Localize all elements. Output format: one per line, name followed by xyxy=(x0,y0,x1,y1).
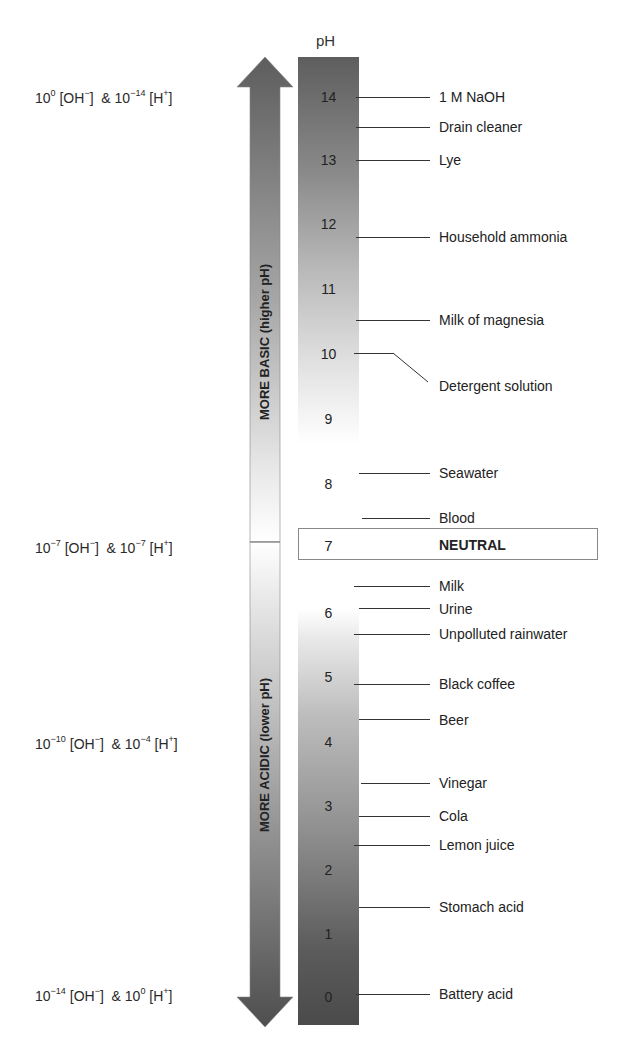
substance-label: Stomach acid xyxy=(439,899,524,915)
leader-line xyxy=(354,353,394,354)
concentration-label-ph4: 10−10 [OH−] & 10−4 [H+] xyxy=(35,735,178,752)
leader-line xyxy=(354,586,430,587)
ph-number-8: 8 xyxy=(298,476,359,492)
leader-line xyxy=(359,719,430,720)
leader-line xyxy=(356,97,430,98)
more-acidic-label: MORE ACIDIC (lower pH) xyxy=(257,678,272,832)
ph-number-7: 7 xyxy=(298,537,359,554)
substance-label: Milk xyxy=(439,578,464,594)
leader-line xyxy=(356,994,430,995)
neutral-label: NEUTRAL xyxy=(439,537,506,553)
ph-number-4: 4 xyxy=(298,734,359,750)
substance-label: Beer xyxy=(439,712,469,728)
ph-number-11: 11 xyxy=(298,281,359,297)
substance-label: Cola xyxy=(439,808,468,824)
ph-number-5: 5 xyxy=(298,669,359,685)
leader-line xyxy=(354,684,430,685)
substance-label: 1 M NaOH xyxy=(439,89,505,105)
leader-line xyxy=(359,816,430,817)
substance-label: Lye xyxy=(439,152,461,168)
leader-line xyxy=(359,907,430,908)
leader-line-diagonal xyxy=(392,352,432,384)
substance-label: Blood xyxy=(439,510,475,526)
substance-label: Detergent solution xyxy=(439,378,553,394)
substance-label: Vinegar xyxy=(439,775,487,791)
substance-label: Household ammonia xyxy=(439,229,567,245)
leader-line xyxy=(361,783,430,784)
substance-label: Drain cleaner xyxy=(439,119,522,135)
ph-number-2: 2 xyxy=(298,862,359,878)
leader-line xyxy=(356,320,430,321)
leader-line xyxy=(362,518,430,519)
concentration-label-ph0: 10−14 [OH−] & 100 [H+] xyxy=(35,987,172,1004)
ph-number-10: 10 xyxy=(298,346,359,362)
ph-number-6: 6 xyxy=(298,605,359,621)
leader-line xyxy=(356,237,430,238)
concentration-label-ph14: 100 [OH−] & 10−14 [H+] xyxy=(35,89,172,106)
ph-number-0: 0 xyxy=(298,989,359,1005)
basic-acidic-double-arrow xyxy=(230,50,305,1035)
substance-label: Black coffee xyxy=(439,676,515,692)
substance-label: Urine xyxy=(439,601,472,617)
substance-label: Battery acid xyxy=(439,986,513,1002)
leader-line xyxy=(356,127,430,128)
concentration-label-ph7: 10−7 [OH−] & 10−7 [H+] xyxy=(35,539,173,556)
substance-label: Unpolluted rainwater xyxy=(439,626,567,642)
more-basic-label: MORE BASIC (higher pH) xyxy=(257,264,272,420)
leader-line xyxy=(354,634,430,635)
substance-label: Lemon juice xyxy=(439,837,515,853)
ph-number-1: 1 xyxy=(298,926,359,942)
leader-line xyxy=(354,845,430,846)
ph-number-13: 13 xyxy=(298,152,359,168)
leader-line xyxy=(356,160,430,161)
ph-number-9: 9 xyxy=(298,411,359,427)
ph-number-14: 14 xyxy=(298,89,359,105)
ph-scale-title: pH xyxy=(316,32,335,49)
leader-line xyxy=(359,608,430,609)
leader-line xyxy=(359,473,430,474)
ph-number-3: 3 xyxy=(298,798,359,814)
ph-number-12: 12 xyxy=(298,216,359,232)
substance-label: Milk of magnesia xyxy=(439,312,544,328)
substance-label: Seawater xyxy=(439,465,498,481)
